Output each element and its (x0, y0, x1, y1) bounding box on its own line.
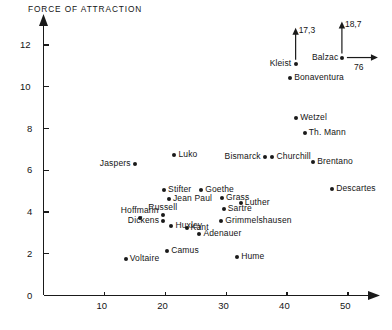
x-tick-label-10: 10 (96, 300, 107, 311)
data-point-hoffmann (138, 216, 142, 220)
point-label-churchill: Churchill (276, 152, 310, 161)
y-tick-label-4: 4 (27, 206, 32, 217)
point-label-descartes: Descartes (336, 184, 376, 193)
y-tick-label-12: 12 (20, 39, 31, 50)
point-label-voltaire: Voltaire (130, 254, 160, 263)
data-point-camus (165, 249, 169, 253)
point-label-grass: Grass (226, 193, 249, 202)
y-tick-label-2: 2 (27, 248, 32, 259)
point-label-th-mann: Th. Mann (309, 128, 346, 137)
kleist-up-arrow-label: 17,3 (299, 25, 316, 35)
data-point-sartre (222, 207, 226, 211)
point-label-stifter: Stifter (168, 185, 191, 194)
scatter-chart: FORCE OF ATTRACTION 1020304050024681012 … (0, 0, 392, 330)
point-label-wetzel: Wetzel (300, 113, 327, 122)
data-point-voltaire (124, 257, 128, 261)
point-label-balzac: Balzac (312, 53, 338, 62)
point-label-camus: Camus (171, 246, 199, 255)
point-label-grimmelshausen: Grimmelshausen (225, 216, 291, 225)
point-label-jaspers: Jaspers (100, 159, 131, 168)
point-label-jean-paul: Jean Paul (173, 194, 212, 203)
y-tick-label-10: 10 (20, 81, 31, 92)
point-label-luko: Luko (178, 150, 197, 159)
point-label-adenauer: Adenauer (203, 229, 241, 238)
y-axis-arrowhead (39, 14, 48, 26)
point-label-brentano: Brentano (317, 157, 353, 166)
balzac-right-arrow-label: 76 (354, 62, 363, 72)
x-tick-label-30: 30 (218, 300, 229, 311)
point-label-bonaventura: Bonaventura (294, 73, 344, 82)
y-tick-label-0: 0 (27, 290, 32, 301)
data-point-balzac (340, 56, 344, 60)
point-label-dickens: Dickens (128, 216, 159, 225)
data-point-hume (235, 255, 239, 259)
data-point-kleist (294, 62, 298, 66)
y-tick-label-6: 6 (27, 164, 32, 175)
data-point-russell (161, 213, 165, 217)
point-label-kleist: Kleist (270, 59, 292, 68)
axis-ticks (44, 45, 349, 295)
point-label-goethe: Goethe (205, 185, 234, 194)
x-axis-arrowhead (368, 291, 380, 300)
data-point-bismarck (263, 155, 267, 159)
y-tick-label-8: 8 (27, 123, 32, 134)
balzac-up-arrow-label: 18,7 (345, 19, 362, 29)
point-label-hoffmann: Hoffmann (121, 206, 159, 215)
x-tick-label-20: 20 (157, 300, 168, 311)
point-label-hume: Hume (241, 252, 264, 261)
data-point-th-mann (303, 131, 307, 135)
x-tick-label-40: 40 (279, 300, 290, 311)
point-label-huxley: Huxley (175, 221, 202, 230)
balzac-right-arrow (347, 54, 378, 60)
data-point-jaspers (133, 162, 137, 166)
x-tick-label-50: 50 (340, 300, 351, 311)
point-label-bismarck: Bismarck (225, 152, 261, 161)
